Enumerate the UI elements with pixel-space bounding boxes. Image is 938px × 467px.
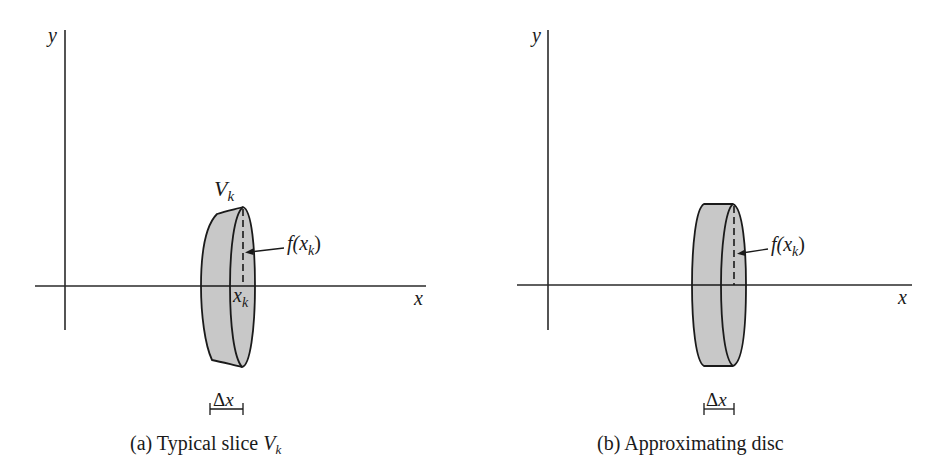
panel-a-caption: (a) Typical slice Vk (130, 432, 281, 457)
panel-a-slice-label: Vk (214, 176, 234, 204)
panel-b-width-bracket: Δx (704, 389, 734, 415)
panel-b-caption: (b) Approximating disc (597, 432, 784, 455)
volume-slicing-diagram: y x Vk f(xk) xk Δx (0, 0, 938, 467)
panel-b-y-axis-label: y (530, 24, 541, 47)
panel-a-height-label: f(xk) (287, 232, 321, 258)
panel-a-width-bracket: Δx (210, 389, 243, 415)
panel-b-height-label: f(xk) (771, 233, 805, 259)
panel-b-height-pointer (742, 249, 768, 253)
panel-a-y-axis-label: y (46, 24, 57, 47)
panel-b-width-label: Δx (706, 389, 727, 410)
panel-a-typical-slice: y x Vk f(xk) xk Δx (35, 24, 426, 457)
panel-b-approximating-disc: y x f(xk) Δx (b) Approximating disc (517, 24, 912, 455)
panel-a-height-pointer (250, 248, 284, 252)
panel-a-width-label: Δx (213, 389, 234, 410)
panel-a-x-axis-label: x (413, 287, 423, 309)
panel-b-x-axis-label: x (897, 286, 907, 308)
panel-a-slice-solid (201, 207, 255, 367)
